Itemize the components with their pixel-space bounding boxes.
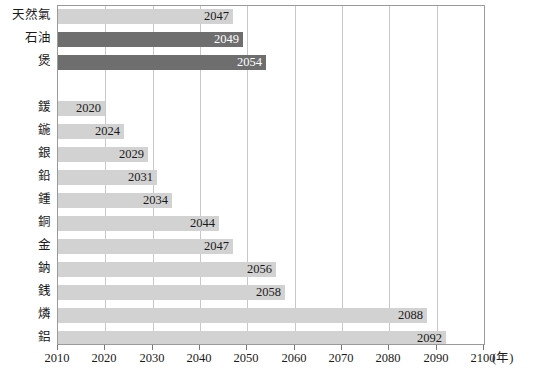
x-tick-label: 2010 (45, 350, 70, 366)
gridline-2060 (295, 6, 296, 344)
bar-value-label: 2020 (58, 101, 105, 116)
x-tick-label: 2060 (282, 350, 307, 366)
x-axis-unit-label: (年) (492, 350, 513, 366)
category-label: 鍦 (38, 123, 51, 138)
gridline-2090 (437, 6, 438, 344)
bar-value-label: 2092 (58, 331, 446, 345)
bar-value-label: 2054 (58, 55, 266, 70)
gridline-2070 (342, 6, 343, 344)
x-tick-label: 2020 (92, 350, 117, 366)
x-tick-label: 2080 (376, 350, 401, 366)
bar-value-label: 2044 (58, 216, 219, 231)
category-label: 鍾 (38, 192, 51, 207)
bar-value-label: 2088 (58, 308, 427, 323)
plot-area: 2047204920542020202420292031203420442047… (57, 5, 485, 345)
bar-value-label: 2056 (58, 262, 276, 277)
chart-container: 天然氣石油煲鍰鍦銀鉛鍾銅金鈉銭燐鋁 2047204920542020202420… (0, 0, 546, 390)
bar-value-label: 2049 (58, 32, 243, 47)
bar-value-label: 2034 (58, 193, 172, 208)
category-label: 鈉 (38, 261, 51, 276)
category-label: 銀 (38, 146, 51, 161)
category-label: 煲 (38, 54, 51, 69)
category-label: 鍰 (38, 100, 51, 115)
gridline-2080 (389, 6, 390, 344)
bar-value-label: 2047 (58, 239, 233, 254)
category-label-column: 天然氣石油煲鍰鍦銀鉛鍾銅金鈉銭燐鋁 (0, 0, 54, 345)
bar-value-label: 2047 (58, 9, 233, 24)
category-label: 鉛 (38, 169, 51, 184)
bar-value-label: 2031 (58, 170, 157, 185)
x-tick-label: 2070 (329, 350, 354, 366)
x-tick-label: 2040 (187, 350, 212, 366)
category-label: 金 (38, 238, 51, 253)
category-label: 銭 (38, 284, 51, 299)
category-label: 石油 (25, 31, 51, 46)
bar-value-label: 2058 (58, 285, 285, 300)
category-label: 銅 (38, 215, 51, 230)
x-axis: 2010202020302040205020602070208020902100 (57, 345, 485, 367)
bar-value-label: 2024 (58, 124, 124, 139)
gridline-2100 (484, 6, 485, 344)
category-label: 天然氣 (12, 8, 51, 23)
bar-value-label: 2029 (58, 147, 148, 162)
category-label: 燐 (38, 307, 51, 322)
x-tick-label: 2030 (140, 350, 165, 366)
x-tick-label: 2050 (234, 350, 259, 366)
x-tick-label: 2090 (424, 350, 449, 366)
category-label: 鋁 (38, 330, 51, 345)
